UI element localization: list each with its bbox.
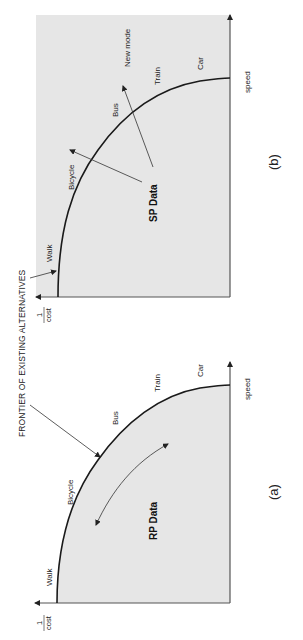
panel-a-mode-bicycle: Bicycle: [66, 479, 75, 505]
panel-a-shaded-area: [57, 385, 230, 603]
panel-a-frontier-pointer: [30, 405, 100, 457]
panel-b-mode-train: Train: [153, 67, 162, 85]
panel-b-cost-fraction: 1 cost: [35, 307, 53, 323]
panel-b-mode-bus: Bus: [111, 103, 120, 117]
panel-b-speed-label: speed: [243, 71, 252, 93]
figure-canvas: Walk Bicycle Bus Train Car New mode SP D…: [0, 0, 303, 640]
panel-a-mode-walk: Walk: [45, 568, 54, 586]
panel-b: Walk Bicycle Bus Train Car New mode SP D…: [30, 15, 281, 323]
panel-b-mode-bicycle: Bicycle: [67, 164, 76, 190]
panel-a-mode-car: Car: [196, 364, 205, 377]
panel-b-sp-data-label: SP Data: [148, 184, 159, 222]
frontier-label: FRONTIER OF EXISTING ALTERNATIVES: [17, 269, 27, 437]
panel-a-speed-label: speed: [243, 378, 252, 400]
panel-a-cost-fraction: 1 cost: [35, 615, 53, 631]
panel-b-caption: (b): [266, 154, 281, 170]
panel-b-mode-new: New mode: [123, 28, 132, 67]
panel-a-rp-data-label: RP Data: [148, 501, 159, 540]
panel-b-cost-den: cost: [44, 307, 53, 322]
panel-a: Walk Bicycle Bus Train Car RP Data speed…: [30, 362, 281, 631]
panel-b-mode-car: Car: [196, 57, 205, 70]
panel-a-cost-num: 1: [35, 621, 44, 625]
panel-b-cost-num: 1: [35, 313, 44, 317]
panel-a-cost-den: cost: [44, 615, 53, 630]
panel-a-mode-train: Train: [153, 374, 162, 392]
panel-b-mode-walk: Walk: [45, 244, 54, 262]
panel-a-caption: (a): [266, 484, 281, 500]
panel-a-mode-bus: Bus: [111, 411, 120, 425]
